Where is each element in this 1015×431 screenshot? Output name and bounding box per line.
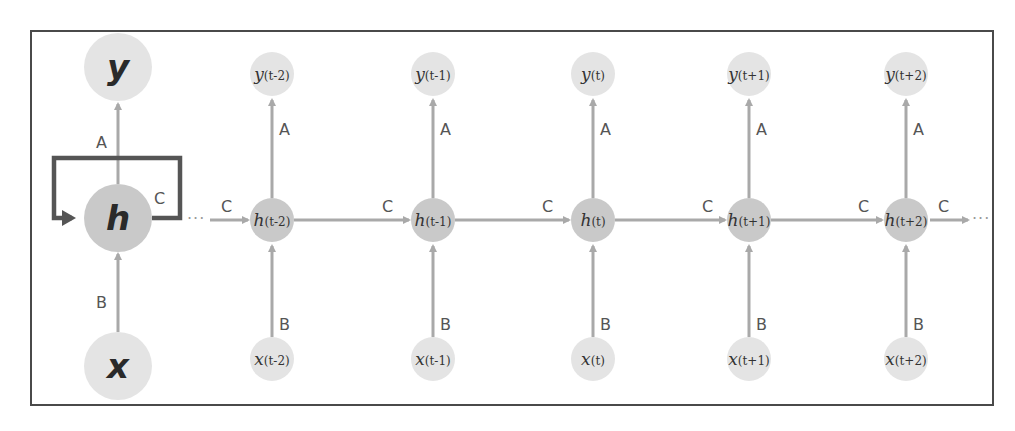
label-A: A — [279, 120, 290, 139]
label-C-3: C — [702, 197, 713, 216]
ellipsis-right: ··· — [972, 209, 990, 228]
folded-output-node: y — [84, 33, 152, 101]
label-A: A — [756, 120, 767, 139]
label-B: B — [440, 315, 451, 334]
label-C-in: C — [221, 197, 232, 216]
timestep-t-plus-2: A B y(t+2) h(t+2) x(t+2) — [884, 52, 928, 381]
label-C-2: C — [542, 197, 553, 216]
label-C-out: C — [938, 197, 949, 216]
timestep-t-minus-1: A B y(t-1) h(t-1) x(t-1) — [411, 52, 455, 381]
timestep-t: A B y(t) h(t) x(t) — [571, 52, 615, 381]
folded-hidden-node: h — [84, 184, 152, 252]
label-A: A — [913, 120, 924, 139]
folded-output-label: y — [107, 47, 131, 87]
folded-label-C: C — [154, 189, 165, 208]
label-B: B — [756, 315, 767, 334]
label-B: B — [913, 315, 924, 334]
ellipsis-left: ··· — [187, 209, 205, 228]
label-B: B — [600, 315, 611, 334]
folded-label-B: B — [96, 293, 107, 312]
rnn-diagram: A B C y h x ··· C C C C C C — [0, 0, 1015, 431]
label-C-4: C — [858, 197, 869, 216]
label-C-1: C — [382, 197, 393, 216]
folded-hidden-label: h — [106, 198, 130, 238]
timestep-t-minus-2: A B y(t-2) h(t-2) x(t-2) — [250, 52, 294, 381]
label-B: B — [279, 315, 290, 334]
label-A: A — [600, 120, 611, 139]
folded-input-node: x — [84, 332, 152, 400]
folded-rnn: A B C y h x — [54, 33, 180, 400]
folded-input-label: x — [105, 346, 130, 386]
timestep-t-plus-1: A B y(t+1) h(t+1) x(t+1) — [727, 52, 771, 381]
label-A: A — [440, 120, 451, 139]
folded-label-A: A — [96, 133, 107, 152]
unfolded-rnn: ··· C C C C C C ··· A B y(t-2) h(t-2) x(… — [187, 52, 990, 381]
